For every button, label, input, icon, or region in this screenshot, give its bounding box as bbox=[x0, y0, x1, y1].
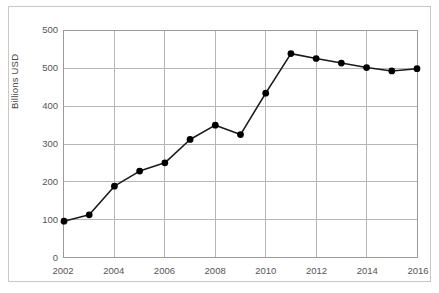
data-point-marker bbox=[288, 50, 295, 57]
data-point-marker bbox=[338, 60, 345, 67]
y-tick-label: 300 bbox=[18, 139, 58, 149]
x-tick-label: 2014 bbox=[357, 266, 378, 276]
x-tick-label: 2010 bbox=[255, 266, 276, 276]
y-tick-label: 200 bbox=[18, 177, 58, 187]
x-tick-label: 2016 bbox=[407, 266, 428, 276]
data-point-marker bbox=[61, 218, 68, 225]
data-point-marker bbox=[136, 168, 143, 175]
x-axis-tick-labels: 20022004200620082010201220142016 bbox=[63, 266, 418, 280]
x-tick-label: 2002 bbox=[52, 266, 73, 276]
plot-area bbox=[63, 30, 418, 258]
x-tick-label: 2008 bbox=[205, 266, 226, 276]
data-point-marker bbox=[161, 159, 168, 166]
y-tick-label: 100 bbox=[18, 215, 58, 225]
y-tick-label: 500 bbox=[18, 25, 58, 35]
data-point-marker bbox=[262, 90, 269, 97]
y-tick-label: 500 bbox=[18, 63, 58, 73]
data-point-marker bbox=[363, 64, 370, 71]
data-point-marker bbox=[212, 122, 219, 129]
data-point-marker bbox=[187, 136, 194, 143]
chart-figure: Billions USD 5005004003002001000 2002200… bbox=[0, 0, 439, 293]
x-tick-label: 2012 bbox=[306, 266, 327, 276]
y-axis-tick-labels: 5005004003002001000 bbox=[12, 30, 58, 258]
data-point-marker bbox=[237, 131, 244, 138]
data-point-marker bbox=[313, 55, 320, 62]
data-series-line bbox=[64, 31, 417, 257]
data-point-marker bbox=[111, 183, 118, 190]
x-tick-label: 2006 bbox=[154, 266, 175, 276]
data-point-marker bbox=[388, 68, 395, 75]
data-point-marker bbox=[414, 65, 421, 72]
data-point-marker bbox=[86, 211, 93, 218]
x-tick-label: 2004 bbox=[103, 266, 124, 276]
y-tick-label: 0 bbox=[18, 253, 58, 263]
y-tick-label: 400 bbox=[18, 101, 58, 111]
